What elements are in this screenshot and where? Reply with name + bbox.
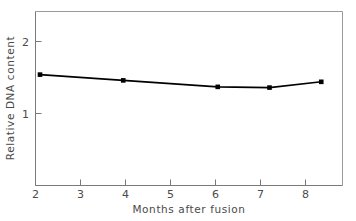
data-point (215, 85, 220, 90)
series-line (40, 75, 321, 88)
x-tick-label-8: 8 (302, 188, 309, 201)
chart-canvas: 2 1 2 3 4 5 6 7 8 Months after fusion Re… (0, 0, 356, 221)
y-tick-label-2: 2 (22, 36, 29, 49)
x-tick-label-3: 3 (77, 188, 84, 201)
x-tick-label-5: 5 (167, 188, 174, 201)
data-series-relative-dna-content (38, 72, 324, 90)
x-axis-ticks (36, 180, 306, 186)
data-point (121, 78, 126, 83)
data-point (38, 72, 43, 77)
plot-frame (36, 12, 343, 186)
data-point (267, 85, 272, 90)
chart-figure: 2 1 2 3 4 5 6 7 8 Months after fusion Re… (0, 0, 356, 221)
x-tick-label-2: 2 (32, 188, 39, 201)
x-tick-label-7: 7 (257, 188, 264, 201)
y-axis-title: Relative DNA content (4, 36, 16, 160)
x-tick-label-4: 4 (122, 188, 129, 201)
series-markers (38, 72, 324, 90)
data-point (319, 80, 324, 85)
x-tick-label-6: 6 (212, 188, 219, 201)
y-tick-label-1: 1 (22, 108, 29, 121)
x-axis-title: Months after fusion (132, 203, 245, 215)
y-axis-ticks (36, 42, 42, 114)
